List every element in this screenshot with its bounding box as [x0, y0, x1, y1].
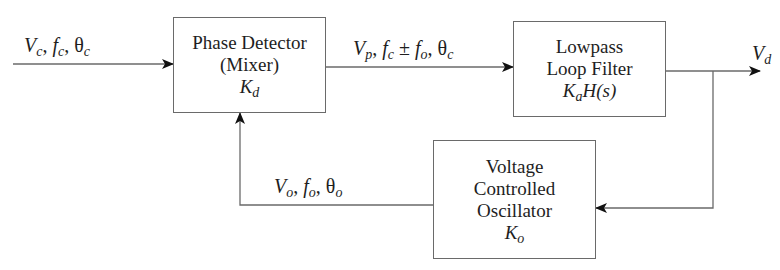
- block-label: Phase Detector: [192, 32, 306, 54]
- loop-filter-block: Lowpass Loop Filter KaH(s): [513, 21, 666, 117]
- phase-detector-block: Phase Detector (Mixer) Kd: [173, 17, 326, 113]
- mixer-output-label: Vp, fc ± fo, θc: [353, 37, 453, 60]
- block-gain: Kd: [240, 76, 260, 98]
- block-label: Loop Filter: [546, 58, 632, 80]
- block-label: Oscillator: [477, 200, 552, 222]
- output-signal-label: Vd: [752, 42, 771, 65]
- vco-block: Voltage Controlled Oscillator Ko: [433, 140, 596, 259]
- input-signal-label: Vc, fc, θc: [24, 34, 90, 57]
- block-gain: Ko: [505, 222, 525, 244]
- block-label: Controlled: [474, 178, 555, 200]
- block-gain: KaH(s): [563, 80, 616, 102]
- block-label: Voltage: [486, 156, 544, 178]
- block-label: Lowpass: [556, 36, 624, 58]
- feedback-signal-label: Vo, fo, θo: [274, 175, 342, 198]
- block-label: (Mixer): [220, 54, 279, 76]
